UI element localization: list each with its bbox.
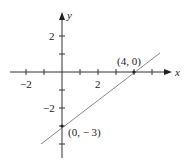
y-tick-label-neg2: −2 xyxy=(43,102,55,114)
line-graph: x y −2 2 2 −2 (4, 0) (0, − 3) xyxy=(0,0,190,162)
x-tick-label-neg2: −2 xyxy=(20,78,32,90)
x-axis-arrow-icon xyxy=(164,69,172,75)
x-axis-label: x xyxy=(174,66,180,78)
point-4-0 xyxy=(132,70,135,73)
y-axis-arrow-icon xyxy=(59,12,65,20)
point-label-4-0: (4, 0) xyxy=(117,55,141,68)
point-label-0-neg3: (0, − 3) xyxy=(68,126,101,139)
y-tick-label-2: 2 xyxy=(49,30,55,42)
y-axis-label: y xyxy=(66,9,72,21)
point-0-neg3 xyxy=(60,124,63,127)
x-tick-label-2: 2 xyxy=(95,78,101,90)
